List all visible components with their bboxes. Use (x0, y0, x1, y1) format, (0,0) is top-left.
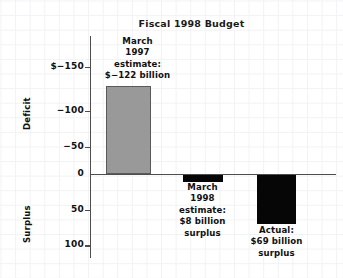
annotation-bar-2: March 1998 estimate: $8 billion surplus (163, 182, 242, 239)
annotation-bar-2-line-4: surplus (163, 228, 242, 239)
annotation-bar-2-line-1: 1998 (163, 193, 242, 204)
annotation-bar-2-line-3: $8 billion (163, 216, 242, 227)
y-tick-label-minus150: $−150 (28, 61, 84, 71)
annotation-bar-1-line-1: 1997 (90, 47, 185, 58)
y-tick-label-minus100: −100 (28, 105, 84, 115)
chart-figure: Fiscal 1998 Budget $−150 −100 −50 0 50 1… (0, 0, 343, 278)
bar-actual (257, 175, 296, 225)
y-tick-label-zero: 0 (28, 168, 84, 178)
y-tick-mark-100 (85, 245, 91, 246)
annotation-bar-3: Actual: $69 billion surplus (237, 225, 316, 259)
annotation-bar-3-line-2: surplus (237, 248, 316, 259)
y-tick-mark-minus50 (85, 147, 91, 148)
bar-march-1998-estimate (183, 175, 223, 183)
annotation-bar-1: March 1997 estimate: $−122 billion (90, 36, 185, 82)
y-tick-label-minus50: −50 (28, 141, 84, 151)
annotation-bar-3-line-0: Actual: (237, 225, 316, 236)
y-tick-mark-minus100 (85, 111, 91, 112)
bar-march-1997-estimate (106, 86, 151, 174)
annotation-bar-2-line-2: estimate: (163, 205, 242, 216)
annotation-bar-1-line-0: March (90, 36, 185, 47)
annotation-bar-1-line-3: $−122 billion (90, 70, 185, 81)
chart-title: Fiscal 1998 Budget (0, 18, 343, 29)
y-tick-mark-50 (85, 210, 91, 211)
axis-region-label-surplus: Surplus (22, 205, 32, 243)
axis-region-label-deficit: Deficit (22, 97, 32, 130)
annotation-bar-2-line-0: March (163, 182, 242, 193)
y-tick-label-50: 50 (28, 204, 84, 214)
y-tick-label-100: 100 (28, 239, 84, 249)
annotation-bar-1-line-2: estimate: (90, 59, 185, 70)
annotation-bar-3-line-1: $69 billion (237, 236, 316, 247)
